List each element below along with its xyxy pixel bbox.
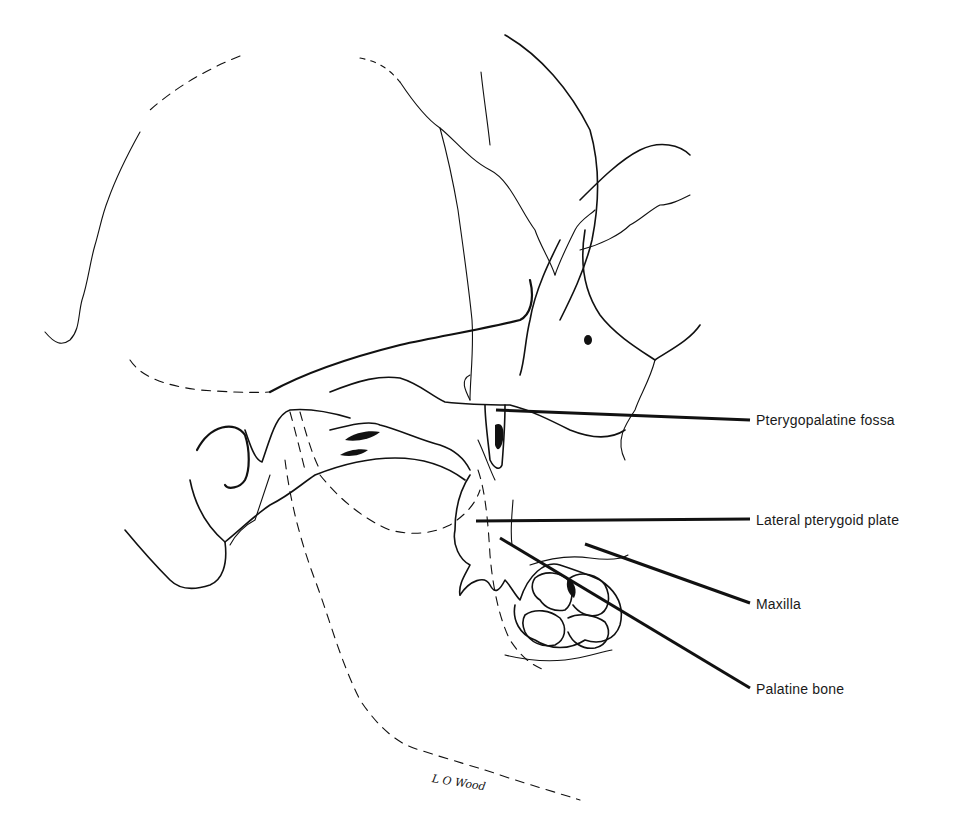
- leader-pterygopalatine-fossa: [496, 410, 750, 420]
- cranial-vault-outline: [45, 56, 400, 343]
- frontal-bone-lines: [400, 35, 598, 400]
- leader-lines: [476, 410, 750, 688]
- molar-teeth: [460, 555, 628, 661]
- anatomical-figure: Pterygopalatine fossa Lateral pterygoid …: [0, 0, 974, 839]
- ear-region: [125, 409, 470, 588]
- label-pterygopalatine-fossa: Pterygopalatine fossa: [756, 413, 895, 427]
- label-maxilla: Maxilla: [756, 597, 801, 611]
- leader-palatine-bone: [500, 538, 750, 688]
- label-palatine-bone: Palatine bone: [756, 682, 844, 696]
- label-lateral-pterygoid-plate: Lateral pterygoid plate: [756, 513, 899, 527]
- leader-lateral-pterygoid-plate: [476, 519, 750, 521]
- pterygoid-region: [454, 405, 545, 670]
- leader-maxilla: [585, 544, 750, 603]
